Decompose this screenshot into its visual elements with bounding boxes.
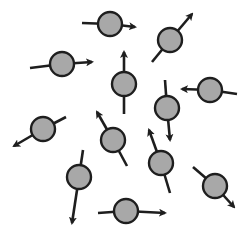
dipole-circle [67, 165, 91, 189]
dipole-circle [198, 78, 222, 102]
dipole-circle [158, 28, 182, 52]
dipole [97, 112, 127, 166]
dipole [193, 167, 234, 207]
dipole [30, 52, 92, 76]
dipole [14, 117, 66, 146]
dipole-circle [203, 174, 227, 198]
dipole-circle [50, 52, 74, 76]
dipole [152, 14, 192, 62]
dipole-circle [98, 12, 122, 36]
dipole [82, 12, 135, 36]
dipole [98, 199, 165, 223]
dipole [182, 78, 237, 102]
dipole [112, 52, 136, 114]
dipole [155, 80, 179, 140]
dipole-circle [112, 72, 136, 96]
dipole-diagram [0, 0, 251, 235]
dipole-circle [31, 117, 55, 141]
dipole-circle [149, 151, 173, 175]
dipole-circle [101, 128, 125, 152]
dipole-circle [114, 199, 138, 223]
dipole-circle [155, 96, 179, 120]
dipole [67, 150, 91, 223]
dipole-group [14, 12, 237, 223]
dipole-diagram-svg [0, 0, 251, 235]
